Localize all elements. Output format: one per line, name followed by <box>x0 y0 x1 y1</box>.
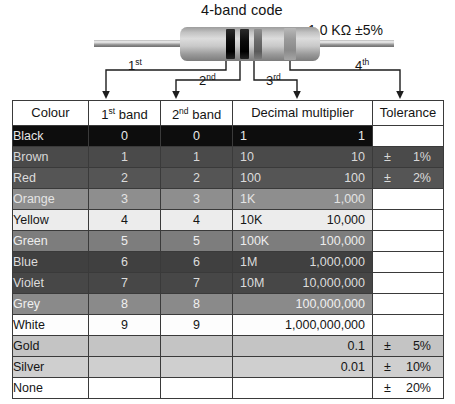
cell-band1: 8 <box>89 294 161 315</box>
cell-decimal-multiplier: 10K10,000 <box>233 210 373 231</box>
leader-lines <box>0 0 455 100</box>
table-row: Red22100100±2% <box>13 168 444 189</box>
cell-decimal-multiplier: 1M1,000,000 <box>233 252 373 273</box>
cell-tolerance <box>373 315 444 336</box>
multiplier-short: 1 <box>240 126 247 146</box>
ordinal-label-1st-suffix: st <box>135 57 142 67</box>
cell-band2 <box>161 357 233 378</box>
cell-band1: 1 <box>89 147 161 168</box>
cell-colour-none: None <box>13 378 89 399</box>
cell-band1 <box>89 336 161 357</box>
cell-tolerance <box>373 294 444 315</box>
cell-tolerance <box>373 252 444 273</box>
multiplier-full: 1 <box>233 126 372 146</box>
colour-code-table-wrapper: Colour 1st band 2nd band Decimal multipl… <box>12 100 443 399</box>
cell-tolerance: ±2% <box>373 168 444 189</box>
column-header-tolerance: Tolerance <box>373 101 444 126</box>
cell-band1: 6 <box>89 252 161 273</box>
cell-tolerance: ±5% <box>373 336 444 357</box>
cell-band2 <box>161 378 233 399</box>
cell-band1 <box>89 357 161 378</box>
multiplier-full: 100,000,000 <box>233 294 372 314</box>
cell-band1: 4 <box>89 210 161 231</box>
column-header-tolerance-label: Tolerance <box>380 105 436 120</box>
cell-band1: 2 <box>89 168 161 189</box>
cell-decimal-multiplier <box>233 378 373 399</box>
cell-band2: 5 <box>161 231 233 252</box>
column-header-band2-sup: nd <box>179 106 188 116</box>
cell-colour-orange: Orange <box>13 189 89 210</box>
cell-decimal-multiplier: 1,000,000,000 <box>233 315 373 336</box>
tolerance-sign: ± <box>384 336 391 356</box>
cell-colour-green: Green <box>13 231 89 252</box>
multiplier-full: 1,000,000,000 <box>233 315 372 335</box>
cell-decimal-multiplier: 100K100,000 <box>233 231 373 252</box>
resistor-colour-code-figure: 4-band code 1.0 KΩ ±5% <box>0 0 455 404</box>
table-row: Brown111010±1% <box>13 147 444 168</box>
cell-tolerance: ±10% <box>373 357 444 378</box>
cell-decimal-multiplier: 100,000,000 <box>233 294 373 315</box>
ordinal-label-2nd: 2nd <box>199 72 216 88</box>
table-row: None±20% <box>13 378 444 399</box>
ordinal-label-4th: 4th <box>355 57 369 73</box>
cell-colour-yellow: Yellow <box>13 210 89 231</box>
cell-colour-white: White <box>13 315 89 336</box>
cell-band2: 2 <box>161 168 233 189</box>
multiplier-short: 100 <box>240 168 261 188</box>
table-row: Silver0.01±10% <box>13 357 444 378</box>
cell-colour-blue: Blue <box>13 252 89 273</box>
cell-band1 <box>89 378 161 399</box>
multiplier-short: 100K <box>240 231 269 251</box>
column-header-colour: Colour <box>13 101 89 126</box>
ordinal-label-2nd-suffix: nd <box>206 72 215 82</box>
ordinal-label-3rd: 3rd <box>266 72 281 88</box>
multiplier-full: 0.1 <box>233 336 372 356</box>
multiplier-short: 1M <box>240 252 257 272</box>
tolerance-sign: ± <box>384 147 391 167</box>
cell-decimal-multiplier: 1010 <box>233 147 373 168</box>
table-row: Violet7710M10,000,000 <box>13 273 444 294</box>
cell-band2: 9 <box>161 315 233 336</box>
column-header-band1-suffix: band <box>115 107 148 122</box>
cell-tolerance <box>373 210 444 231</box>
cell-decimal-multiplier: 1K1,000 <box>233 189 373 210</box>
cell-tolerance: ±20% <box>373 378 444 399</box>
multiplier-short: 10 <box>240 147 254 167</box>
cell-decimal-multiplier: 100100 <box>233 168 373 189</box>
table-row: Orange331K1,000 <box>13 189 444 210</box>
table-header: Colour 1st band 2nd band Decimal multipl… <box>13 101 444 126</box>
cell-band1: 0 <box>89 126 161 147</box>
table-body: Black0011Brown111010±1%Red22100100±2%Ora… <box>13 126 444 399</box>
cell-band2: 1 <box>161 147 233 168</box>
cell-band2: 4 <box>161 210 233 231</box>
column-header-decimal-multiplier: Decimal multiplier <box>233 101 373 126</box>
cell-colour-gold: Gold <box>13 336 89 357</box>
cell-band1: 3 <box>89 189 161 210</box>
column-header-band1-number: 1 <box>101 107 108 122</box>
cell-colour-brown: Brown <box>13 147 89 168</box>
cell-colour-grey: Grey <box>13 294 89 315</box>
cell-decimal-multiplier: 11 <box>233 126 373 147</box>
resistor-diagram: 4-band code 1.0 KΩ ±5% <box>0 0 455 100</box>
cell-band2 <box>161 336 233 357</box>
table-row: Grey88100,000,000 <box>13 294 444 315</box>
cell-tolerance <box>373 126 444 147</box>
cell-band1: 5 <box>89 231 161 252</box>
cell-tolerance <box>373 273 444 294</box>
cell-tolerance <box>373 231 444 252</box>
table-row: White991,000,000,000 <box>13 315 444 336</box>
multiplier-short: 10K <box>240 210 262 230</box>
column-header-band2: 2nd band <box>161 101 233 126</box>
tolerance-sign: ± <box>384 378 391 398</box>
cell-band2: 8 <box>161 294 233 315</box>
cell-colour-silver: Silver <box>13 357 89 378</box>
ordinal-label-3rd-suffix: rd <box>273 72 281 82</box>
cell-tolerance <box>373 189 444 210</box>
table-row: Yellow4410K10,000 <box>13 210 444 231</box>
tolerance-sign: ± <box>384 357 391 377</box>
tolerance-sign: ± <box>384 168 391 188</box>
column-header-decimal-multiplier-label: Decimal multiplier <box>251 105 354 120</box>
cell-band2: 6 <box>161 252 233 273</box>
table-row: Gold0.1±5% <box>13 336 444 357</box>
table-header-row: Colour 1st band 2nd band Decimal multipl… <box>13 101 444 126</box>
